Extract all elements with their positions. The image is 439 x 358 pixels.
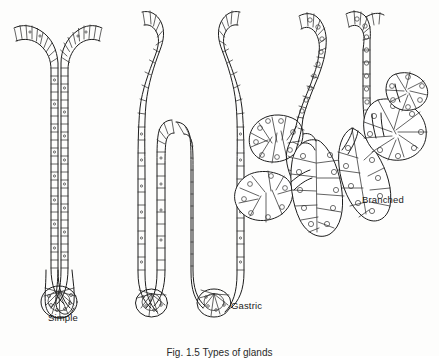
figure-caption: Fig. 1.5 Types of glands (0, 347, 439, 358)
label-gastric: Gastric (231, 300, 262, 311)
label-branched: Branched (362, 194, 404, 205)
label-simple: Simple (48, 312, 78, 323)
